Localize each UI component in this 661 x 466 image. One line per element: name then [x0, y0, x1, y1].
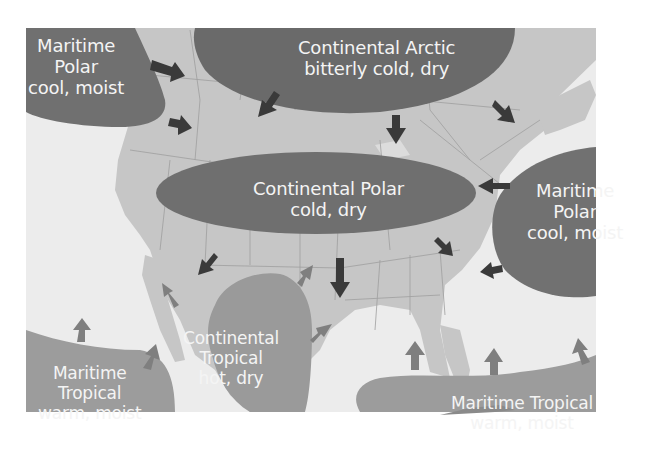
label-line: Maritime	[38, 363, 141, 383]
air-mass-map: Maritime Polar cool, moist Continental A…	[0, 0, 661, 466]
label-continental-arctic: Continental Arctic bitterly cold, dry	[298, 37, 455, 79]
label-line: Tropical	[183, 348, 279, 368]
label-line: cold, dry	[253, 199, 404, 220]
label-line: warm, moist	[451, 413, 593, 433]
label-line: Continental	[183, 328, 279, 348]
label-maritime-tropical-pacific: Maritime Tropical warm, moist	[38, 363, 141, 423]
label-line: Continental Arctic	[298, 37, 455, 58]
label-line: Polar	[28, 56, 124, 77]
label-line: hot, dry	[183, 368, 279, 388]
label-continental-polar: Continental Polar cold, dry	[253, 178, 404, 220]
label-line: Tropical	[38, 383, 141, 403]
label-maritime-polar-pacific: Maritime Polar cool, moist	[28, 35, 124, 99]
label-line: Maritime Tropical	[451, 393, 593, 413]
label-line: bitterly cold, dry	[298, 58, 455, 79]
label-line: cool, moist	[527, 222, 623, 243]
label-maritime-tropical-gulf: Maritime Tropical warm, moist	[451, 393, 593, 433]
label-line: Maritime	[28, 35, 124, 56]
label-line: cool, moist	[28, 77, 124, 98]
label-line: Continental Polar	[253, 178, 404, 199]
label-line: Maritime	[527, 180, 623, 201]
label-line: Polar	[527, 201, 623, 222]
label-line: warm, moist	[38, 403, 141, 423]
label-continental-tropical: Continental Tropical hot, dry	[183, 328, 279, 388]
label-maritime-polar-atlantic: Maritime Polar cool, moist	[527, 180, 623, 244]
